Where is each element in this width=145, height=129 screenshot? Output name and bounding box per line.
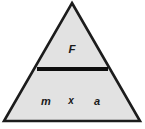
multiplication-operator-label: x: [68, 96, 74, 106]
numerator-label: F: [68, 44, 75, 56]
denominator-left-label: m: [41, 96, 51, 107]
triangle-diagram: [0, 0, 145, 129]
denominator-right-label: a: [94, 96, 100, 107]
formula-triangle-figure: F m x a: [0, 0, 145, 129]
